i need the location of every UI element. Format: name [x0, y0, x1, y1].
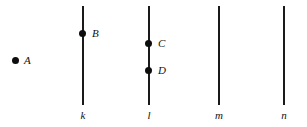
- point-A-dot: [12, 57, 19, 64]
- point-D-dot: [145, 67, 152, 74]
- point-D-label: D: [158, 65, 166, 76]
- point-C-dot: [145, 40, 152, 47]
- line-l-label: l: [139, 110, 159, 121]
- point-C-label: C: [158, 38, 165, 49]
- point-A-label: A: [24, 55, 31, 66]
- point-B-label: B: [92, 28, 99, 39]
- line-n-label: n: [274, 110, 294, 121]
- line-m-label: m: [209, 110, 229, 121]
- line-m: [218, 6, 220, 105]
- line-k-label: k: [73, 110, 93, 121]
- line-n: [283, 6, 285, 105]
- line-l: [148, 6, 150, 105]
- geometry-figure: A B k C D l m n: [0, 0, 307, 127]
- line-k: [82, 6, 84, 105]
- point-B-dot: [79, 30, 86, 37]
